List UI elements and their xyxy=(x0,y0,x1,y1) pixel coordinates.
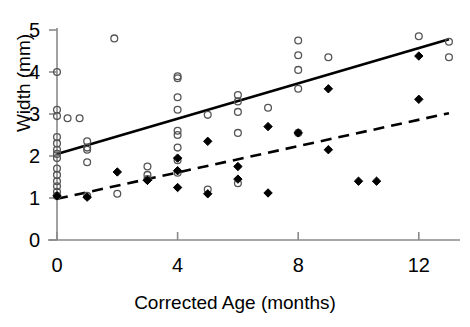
x-tick-label: 12 xyxy=(408,254,430,276)
axes xyxy=(48,28,460,240)
data-point-filled-diamond xyxy=(264,122,272,130)
data-point-open-circle xyxy=(111,35,118,42)
data-point-filled-diamond xyxy=(264,189,272,197)
open-circle-series xyxy=(54,33,453,199)
y-tick-label: 3 xyxy=(29,103,40,125)
solid-regression-line xyxy=(57,39,449,154)
data-point-open-circle xyxy=(174,94,181,101)
data-point-filled-diamond xyxy=(173,183,181,191)
data-point-filled-diamond xyxy=(234,162,242,170)
y-tick-label: 0 xyxy=(29,229,40,251)
data-point-filled-diamond xyxy=(324,146,332,154)
y-tick-label: 1 xyxy=(29,187,40,209)
data-point-open-circle xyxy=(295,37,302,44)
data-point-filled-diamond xyxy=(324,85,332,93)
data-point-open-circle xyxy=(174,132,181,139)
x-tick-label: 8 xyxy=(293,254,304,276)
data-point-open-circle xyxy=(76,115,83,122)
data-point-open-circle xyxy=(295,85,302,92)
data-point-open-circle xyxy=(144,163,151,170)
data-point-filled-diamond xyxy=(113,168,121,176)
data-point-open-circle xyxy=(295,67,302,74)
data-point-open-circle xyxy=(174,106,181,113)
plot-canvas: 012345 04812 xyxy=(0,0,470,327)
data-point-open-circle xyxy=(204,111,211,118)
y-tick-label: 5 xyxy=(29,19,40,41)
filled-diamond-series xyxy=(53,52,423,202)
data-point-filled-diamond xyxy=(372,177,380,185)
y-axis-ticks: 012345 xyxy=(29,19,57,251)
data-point-filled-diamond xyxy=(354,177,362,185)
data-point-open-circle xyxy=(446,54,453,61)
y-tick-label: 2 xyxy=(29,145,40,167)
data-point-open-circle xyxy=(295,52,302,59)
data-point-open-circle xyxy=(84,159,91,166)
x-axis-ticks: 04812 xyxy=(51,232,429,276)
dashed-regression-line xyxy=(57,113,449,199)
data-point-open-circle xyxy=(174,144,181,151)
y-tick-label: 4 xyxy=(29,61,40,83)
data-point-open-circle xyxy=(265,104,272,111)
data-point-filled-diamond xyxy=(294,129,302,137)
data-point-open-circle xyxy=(235,130,242,137)
data-point-open-circle xyxy=(325,54,332,61)
data-point-filled-diamond xyxy=(415,52,423,60)
data-point-open-circle xyxy=(114,190,121,197)
x-tick-label: 4 xyxy=(172,254,183,276)
x-tick-label: 0 xyxy=(51,254,62,276)
data-point-open-circle xyxy=(235,109,242,116)
data-point-open-circle xyxy=(415,33,422,40)
data-point-open-circle xyxy=(64,115,71,122)
scatter-plot-figure: Width (mm) Corrected Age (months) 012345… xyxy=(0,0,470,327)
data-point-filled-diamond xyxy=(204,137,212,145)
data-point-filled-diamond xyxy=(415,95,423,103)
